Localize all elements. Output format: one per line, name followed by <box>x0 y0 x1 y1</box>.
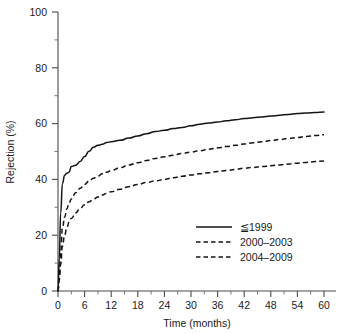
y-tick-label: 0 <box>41 285 47 297</box>
x-tick-label: 48 <box>265 299 277 311</box>
y-axis-tick-labels: 020406080100 <box>29 6 47 297</box>
series-line-3 <box>58 161 324 291</box>
x-tick-label: 42 <box>238 299 250 311</box>
x-tick-label: 30 <box>185 299 197 311</box>
x-axis-title: Time (months) <box>163 317 230 329</box>
y-tick-label: 40 <box>35 173 47 185</box>
data-series-group <box>58 112 324 291</box>
x-tick-label: 18 <box>132 299 144 311</box>
rejection-over-time-chart: 020406080100 Rejection (%) 0612182430364… <box>0 0 348 334</box>
legend-label-1: ≦1999 <box>240 221 273 233</box>
x-tick-label: 36 <box>212 299 224 311</box>
y-tick-label: 60 <box>35 117 47 129</box>
x-tick-label: 60 <box>318 299 330 311</box>
x-axis-tick-labels: 06121824303642485460 <box>55 299 330 311</box>
x-tick-label: 54 <box>292 299 304 311</box>
y-tick-label: 100 <box>29 6 47 18</box>
legend-label-3: 2004–2009 <box>240 251 293 263</box>
x-tick-label: 12 <box>105 299 117 311</box>
series-line-2 <box>58 135 324 291</box>
y-tick-label: 80 <box>35 62 47 74</box>
y-axis: 020406080100 Rejection (%) <box>4 6 58 297</box>
chart-legend: ≦19992000–20032004–2009 <box>196 221 293 263</box>
x-tick-label: 0 <box>55 299 61 311</box>
y-axis-title: Rejection (%) <box>4 120 16 183</box>
chart-canvas: 020406080100 Rejection (%) 0612182430364… <box>0 0 348 334</box>
x-tick-label: 6 <box>82 299 88 311</box>
x-tick-label: 24 <box>159 299 171 311</box>
x-axis: 06121824303642485460 Time (months) <box>55 291 336 329</box>
y-tick-label: 20 <box>35 229 47 241</box>
legend-label-2: 2000–2003 <box>240 236 293 248</box>
